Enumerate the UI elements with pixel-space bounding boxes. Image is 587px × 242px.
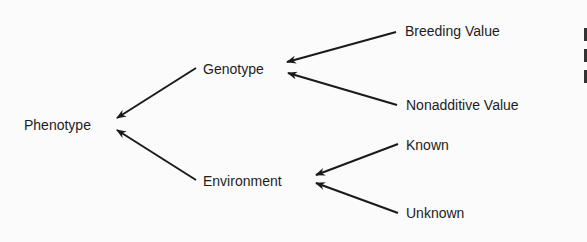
node-phenotype: Phenotype — [24, 117, 91, 133]
node-known: Known — [406, 137, 449, 153]
node-environment: Environment — [203, 173, 282, 189]
node-genotype: Genotype — [203, 61, 264, 77]
arrow-known-to-environment — [316, 144, 398, 175]
node-nonadditive-value: Nonadditive Value — [406, 97, 519, 113]
node-unknown: Unknown — [406, 205, 464, 221]
arrow-environment-to-phenotype — [117, 130, 196, 180]
node-breeding-value: Breeding Value — [405, 23, 500, 39]
arrow-breeding-value-to-genotype — [287, 32, 396, 62]
arrow-nonadditive-value-to-genotype — [288, 73, 397, 105]
phenotype-diagram: Phenotype Genotype Environment Breeding … — [0, 0, 587, 242]
arrow-genotype-to-phenotype — [117, 68, 196, 118]
arrow-unknown-to-environment — [316, 183, 398, 213]
